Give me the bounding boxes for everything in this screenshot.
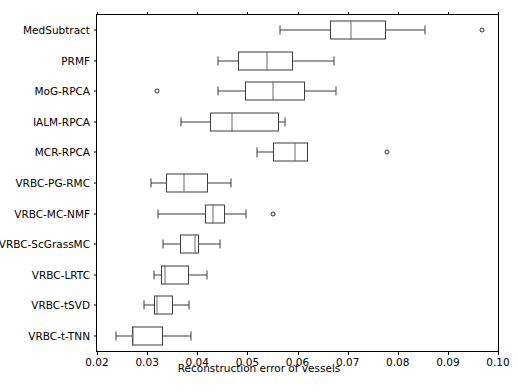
whisker-cap-low <box>217 56 218 65</box>
box-mcr-rpca <box>273 143 308 162</box>
whisker-high <box>189 274 208 275</box>
y-tick-mark <box>94 30 98 31</box>
box-vrbc-pg-rmc <box>166 174 208 193</box>
y-tick-label-vrbc-pg-rmc: VRBC-PG-RMC <box>15 178 97 189</box>
x-tick-mark <box>348 351 349 355</box>
box-vrbc-mc-nmf <box>205 204 226 223</box>
y-tick-mark <box>94 121 98 122</box>
x-tick-mark-top <box>247 12 248 16</box>
whisker-cap-high <box>191 331 192 340</box>
whisker-cap-low <box>217 87 218 96</box>
y-tick-label-prmf: PRMF <box>61 56 97 67</box>
x-tick-mark <box>498 351 499 355</box>
whisker-low <box>280 30 330 31</box>
median-line <box>266 51 267 70</box>
x-tick-mark <box>247 351 248 355</box>
whisker-high <box>163 335 192 336</box>
x-tick-mark-top <box>348 12 349 16</box>
y-tick-label-mcr-rpca: MCR-RPCA <box>35 147 97 158</box>
whisker-low <box>257 152 273 153</box>
y-tick-mark <box>94 335 98 336</box>
outlier-marker <box>271 211 276 216</box>
whisker-cap-low <box>151 178 152 187</box>
x-tick-mark <box>448 351 449 355</box>
box-ialm-rpca <box>210 112 279 131</box>
x-tick-mark-top <box>448 12 449 16</box>
y-tick-mark <box>94 91 98 92</box>
whisker-low <box>158 213 205 214</box>
boxplot-figure: 0.020.030.040.050.060.070.080.090.10MedS… <box>0 0 518 392</box>
whisker-cap-high <box>219 240 220 249</box>
outlier-marker <box>385 150 390 155</box>
y-tick-label-vrbc-mc-nmf: VRBC-MC-NMF <box>14 208 97 219</box>
whisker-cap-high <box>424 26 425 35</box>
whisker-low <box>181 121 210 122</box>
median-line <box>295 143 296 162</box>
x-tick-mark-top <box>398 12 399 16</box>
x-axis-label: Reconstruction error of vessels <box>0 362 518 374</box>
median-line <box>272 82 273 101</box>
box-vrbc-t-tnn <box>132 326 163 345</box>
median-line <box>184 174 185 193</box>
whisker-high <box>208 183 232 184</box>
whisker-high <box>386 30 425 31</box>
whisker-high <box>225 213 246 214</box>
y-tick-mark <box>94 213 98 214</box>
x-tick-mark-top <box>97 12 98 16</box>
y-tick-mark <box>94 305 98 306</box>
whisker-cap-low <box>181 117 182 126</box>
whisker-high <box>199 244 220 245</box>
whisker-cap-low <box>144 301 145 310</box>
y-tick-label-vrbc-lrtc: VRBC-LRTC <box>32 269 97 280</box>
whisker-high <box>305 91 336 92</box>
y-tick-label-ialm-rpca: IALM-RPCA <box>33 117 97 128</box>
y-tick-mark <box>94 152 98 153</box>
y-tick-label-vrbc-tsvd: VRBC-tSVD <box>31 300 97 311</box>
box-prmf <box>238 51 293 70</box>
x-tick-mark-top <box>147 12 148 16</box>
outlier-marker <box>154 89 159 94</box>
whisker-cap-low <box>116 331 117 340</box>
y-tick-mark <box>94 244 98 245</box>
box-medsubtract <box>330 21 386 40</box>
median-line <box>213 204 214 223</box>
whisker-high <box>173 305 189 306</box>
median-line <box>133 326 134 345</box>
x-tick-mark <box>197 351 198 355</box>
y-tick-label-mog-rpca: MoG-RPCA <box>34 86 97 97</box>
whisker-cap-low <box>157 209 158 218</box>
box-vrbc-scgrassmc <box>180 235 199 254</box>
whisker-high <box>293 60 334 61</box>
y-tick-mark <box>94 183 98 184</box>
whisker-cap-high <box>231 178 232 187</box>
median-line <box>351 21 352 40</box>
whisker-cap-low <box>279 26 280 35</box>
median-line <box>195 235 196 254</box>
median-line <box>164 265 165 284</box>
box-mog-rpca <box>245 82 304 101</box>
whisker-cap-high <box>246 209 247 218</box>
x-tick-mark-top <box>197 12 198 16</box>
whisker-low <box>163 244 180 245</box>
x-tick-mark-top <box>498 12 499 16</box>
x-tick-mark <box>97 351 98 355</box>
whisker-cap-low <box>163 240 164 249</box>
y-tick-label-vrbc-t-tnn: VRBC-t-TNN <box>28 330 97 341</box>
x-tick-mark <box>398 351 399 355</box>
whisker-cap-low <box>154 270 155 279</box>
whisker-low <box>144 305 154 306</box>
whisker-cap-high <box>189 301 190 310</box>
whisker-cap-low <box>257 148 258 157</box>
whisker-cap-high <box>285 117 286 126</box>
whisker-low <box>218 60 238 61</box>
y-tick-label-medsubtract: MedSubtract <box>23 25 97 36</box>
y-tick-mark <box>94 60 98 61</box>
whisker-cap-high <box>207 270 208 279</box>
x-tick-mark-top <box>298 12 299 16</box>
x-tick-mark <box>298 351 299 355</box>
y-tick-label-vrbc-scgrassmc: VRBC-ScGrassMC <box>0 239 97 250</box>
median-line <box>157 296 158 315</box>
plot-area: 0.020.030.040.050.060.070.080.090.10MedS… <box>96 14 499 352</box>
y-tick-mark <box>94 274 98 275</box>
median-line <box>232 112 233 131</box>
